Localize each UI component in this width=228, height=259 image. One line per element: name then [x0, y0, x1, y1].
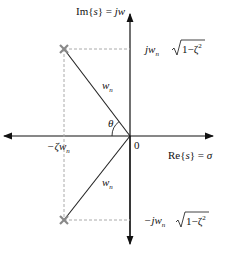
upper-imag-label: jwn — [145, 44, 159, 58]
angle-label: θ — [108, 118, 113, 129]
origin-label: 0 — [134, 140, 140, 151]
upper-vector — [64, 49, 130, 136]
lower-vector-label: wn — [102, 177, 113, 191]
lower-vector — [64, 136, 130, 220]
real-part-label: −ζwn — [47, 141, 70, 155]
lower-sqrt-body: 1−ζ2 — [186, 215, 206, 227]
lower-imag-label: −jwn — [144, 215, 165, 229]
real-axis-label: Re{s} = σ — [168, 150, 212, 161]
imag-axis-label: Im{s} = jw — [76, 6, 125, 17]
upper-sqrt-body: 1−ζ2 — [182, 43, 202, 55]
upper-vector-label: wn — [102, 80, 113, 94]
